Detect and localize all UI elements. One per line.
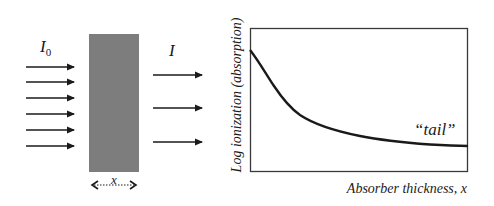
transmitted-intensity-label: I (168, 41, 176, 60)
absorption-graph: “tail” Log ionization (absorption) Absor… (229, 17, 468, 196)
tail-annotation: “tail” (414, 120, 456, 139)
absorber-block (89, 34, 139, 172)
incident-intensity-label: I0 (39, 37, 52, 58)
incident-arrows (26, 67, 74, 146)
x-axis-label: Absorber thickness, x (346, 181, 468, 196)
thickness-indicator: x (92, 172, 136, 189)
thickness-label: x (110, 172, 117, 187)
absorption-diagram: I0 x I “tail” Log ionization (absorption… (0, 0, 494, 206)
y-axis-label: Log ionization (absorption) (229, 17, 245, 173)
transmitted-arrows (153, 75, 202, 142)
